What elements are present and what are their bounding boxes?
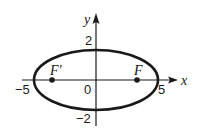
focus-f-prime-label: F′ xyxy=(49,63,63,78)
focus-f-point xyxy=(134,77,140,83)
ellipse-graph: y x 2 −2 −5 5 0 F′ F xyxy=(0,0,200,129)
focus-f-prime-point xyxy=(49,77,55,83)
x-tick-5-label: 5 xyxy=(158,82,165,97)
focus-f-label: F xyxy=(133,63,143,78)
x-tick-neg5-label: −5 xyxy=(15,82,30,97)
y-tick-2-label: 2 xyxy=(85,33,92,48)
x-axis-label: x xyxy=(180,73,188,88)
origin-label: 0 xyxy=(84,82,91,97)
y-tick-neg2-label: −2 xyxy=(76,111,91,126)
y-axis-label: y xyxy=(82,12,91,27)
